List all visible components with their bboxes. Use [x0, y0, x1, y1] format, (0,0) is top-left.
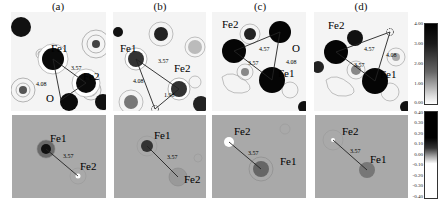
difference-map-a: Fe1 Fe2 3.57: [12, 115, 106, 198]
distance-label: 3.57: [63, 153, 74, 159]
colorbar-tick: 4.00: [409, 21, 423, 26]
colorbar-tick: 0.30: [409, 120, 423, 125]
distance-label: 3.57: [248, 60, 259, 66]
atom-label-fe1: Fe1: [154, 129, 171, 141]
diff-plot-d: [315, 115, 408, 198]
colorbar-difference-density: [424, 111, 438, 199]
distance-label: 4.57: [364, 46, 375, 52]
colorbar-tick: 2.00: [409, 61, 423, 66]
colorbar-tick: -0.20: [409, 173, 423, 178]
distance-label: 4.57: [259, 46, 270, 52]
panel-label-c: (c): [240, 0, 280, 12]
atom-label-fe1: Fe1: [280, 155, 297, 167]
difference-map-d: Fe2 Fe1 3.57: [315, 115, 408, 198]
distance-label: 4.08: [386, 52, 397, 58]
colorbar-tick: 0.00: [409, 152, 423, 157]
distance-label: 3.57: [158, 58, 169, 64]
charge-density-map-c: Fe2 O Fe1 4.57 3.57 4.08: [212, 12, 306, 111]
distance-label: 4.08: [36, 81, 47, 87]
contour-plot-a: [11, 12, 106, 111]
charge-density-map-d: Fe2 Fe1 4.57 3.57 4.08: [314, 12, 408, 111]
atom-label-fe1: Fe1: [278, 67, 295, 79]
distance-label: 3.57: [354, 62, 365, 68]
atom-label-fe1: Fe1: [120, 42, 137, 54]
distance-label: 3.57: [248, 150, 259, 156]
distance-label: 1.98: [164, 92, 175, 98]
atom-label-fe2: Fe2: [83, 70, 100, 82]
colorbar-tick: 0.00: [409, 100, 423, 105]
atom-label-fe1: Fe1: [51, 42, 68, 54]
panel-label-b: (b): [140, 0, 180, 12]
charge-density-map-b: Fe1 Fe2 3.57 4.08 1.98: [113, 12, 206, 111]
distance-label: 3.57: [71, 65, 82, 71]
atom-label-fe2: Fe2: [328, 19, 345, 31]
diff-plot-a: [12, 115, 106, 198]
colorbar-charge-density: [424, 23, 438, 105]
colorbar-tick: 0.10: [409, 141, 423, 146]
atom-label-fe2: Fe2: [222, 18, 239, 30]
atom-label-fe1: Fe1: [50, 132, 67, 144]
charge-density-map-a: Fe1 Fe2 O 3.57 4.08: [11, 12, 106, 111]
atom-label-fe2: Fe2: [184, 173, 201, 185]
colorbar-tick: 0.20: [409, 131, 423, 136]
colorbar-tick: -0.40: [409, 194, 423, 199]
distance-label: 4.08: [133, 78, 144, 84]
atom-label-fe1: Fe1: [370, 153, 387, 165]
difference-map-b: Fe1 Fe2 3.57: [114, 115, 206, 198]
colorbar-tick: 1.00: [409, 81, 423, 86]
distance-label: 4.08: [286, 59, 297, 65]
atom-label-fe2: Fe2: [174, 62, 191, 74]
atom-label-fe2: Fe2: [234, 125, 251, 137]
distance-label: 3.57: [350, 148, 361, 154]
atom-label-fe2: Fe2: [80, 160, 97, 172]
difference-map-c: Fe2 Fe1 3.57: [212, 115, 306, 198]
atom-label-o: O: [292, 42, 300, 54]
colorbar-tick: 3.00: [409, 41, 423, 46]
colorbar-tick: -0.30: [409, 183, 423, 188]
panel-label-a: (a): [38, 0, 78, 12]
atom-label-fe2: Fe2: [342, 125, 359, 137]
colorbar-tick: 0.40: [409, 110, 423, 115]
diff-plot-b: [114, 115, 206, 198]
atom-label-fe1: Fe1: [380, 68, 397, 80]
atom-label-o: O: [46, 92, 54, 104]
colorbar-tick: -0.10: [409, 162, 423, 167]
panel-label-d: (d): [341, 0, 381, 12]
distance-label: 3.57: [167, 154, 178, 160]
